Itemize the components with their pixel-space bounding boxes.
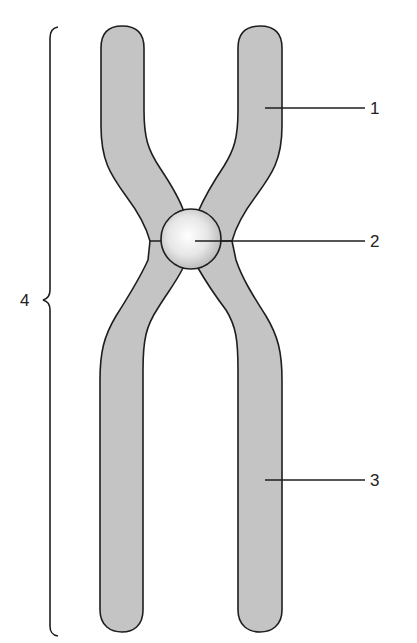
brace xyxy=(43,27,58,636)
label-3: 3 xyxy=(370,472,379,489)
centromere xyxy=(161,209,221,269)
label-1: 1 xyxy=(370,100,379,117)
left-chromatid xyxy=(100,26,190,632)
label-2: 2 xyxy=(370,233,379,250)
right-chromatid xyxy=(192,26,282,632)
label-4: 4 xyxy=(20,292,29,309)
chromosome-diagram xyxy=(0,0,417,643)
